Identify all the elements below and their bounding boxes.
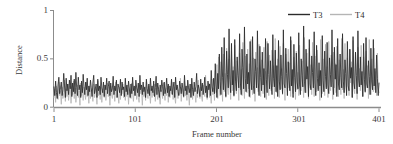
x-axis-title: Frame number	[192, 129, 242, 139]
x-tick-label-1: 1	[52, 114, 57, 124]
x-tick-label-401: 401	[372, 114, 386, 124]
legend-label-t4: T4	[355, 10, 365, 20]
legend-label-t3: T3	[313, 10, 322, 20]
x-tick-label-101: 101	[128, 114, 142, 124]
y-tick-label-1: 1	[44, 5, 49, 15]
distance-vs-frame-line-chart: 1 0.5 0 1 101 201 301 401 Distance Frame…	[0, 0, 393, 144]
y-tick-label-0_5: 0.5	[37, 53, 49, 63]
x-tick-label-301: 301	[292, 114, 306, 124]
x-tick-label-201: 201	[210, 114, 224, 124]
chart-figure: 1 0.5 0 1 101 201 301 401 Distance Frame…	[0, 0, 393, 144]
y-axis-title: Distance	[14, 45, 24, 75]
y-tick-label-0: 0	[44, 102, 49, 112]
